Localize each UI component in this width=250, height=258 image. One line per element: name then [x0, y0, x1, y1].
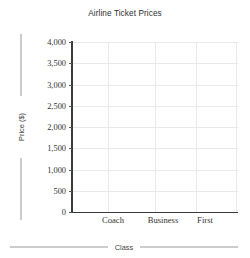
y-axis-tick-label: 0 — [62, 208, 66, 217]
y-axis-tick-mark — [69, 42, 73, 43]
y-axis-tick-mark — [69, 212, 73, 213]
y-axis-tick-mark — [69, 63, 73, 64]
y-axis-tick-mark — [69, 148, 73, 149]
y-axis-rule-top — [21, 34, 22, 96]
x-axis-category-label: Coach — [102, 215, 124, 225]
y-axis-title: Price ($) — [17, 113, 26, 141]
gridline-vertical — [108, 42, 109, 212]
x-axis-rule-right — [140, 247, 238, 248]
chart-figure: Airline Ticket Prices 05001,0001,5002,00… — [0, 0, 250, 258]
gridline-vertical — [236, 42, 237, 212]
gridline-vertical — [155, 42, 156, 212]
x-axis-line — [71, 212, 238, 214]
y-axis-tick-label: 2,500 — [47, 101, 66, 110]
y-axis-tick-label: 4,000 — [47, 38, 66, 47]
y-axis-rule-bottom — [21, 158, 22, 220]
plot-area — [72, 42, 238, 212]
y-axis-title-group: Price ($) — [13, 34, 29, 220]
y-axis-tick-mark — [69, 85, 73, 86]
x-axis-category-label: First — [197, 215, 213, 225]
x-axis-title: Class — [110, 243, 138, 252]
chart-title: Airline Ticket Prices — [0, 9, 250, 18]
x-axis-rule-left — [10, 247, 108, 248]
y-axis-tick-mark — [69, 106, 73, 107]
y-axis-tick-label: 500 — [53, 186, 66, 195]
gridline-vertical — [196, 42, 197, 212]
y-axis-tick-label: 1,500 — [47, 144, 66, 153]
x-axis-category-label: Business — [148, 215, 179, 225]
y-axis-tick-label: 1,000 — [47, 165, 66, 174]
y-axis-tick-label: 3,500 — [47, 59, 66, 68]
y-axis-tick-mark — [69, 127, 73, 128]
y-axis-tick-mark — [69, 191, 73, 192]
y-axis-tick-mark — [69, 170, 73, 171]
x-axis-title-group: Class — [10, 239, 238, 255]
y-axis-tick-label: 3,000 — [47, 80, 66, 89]
y-axis-tick-label: 2,000 — [47, 123, 66, 132]
